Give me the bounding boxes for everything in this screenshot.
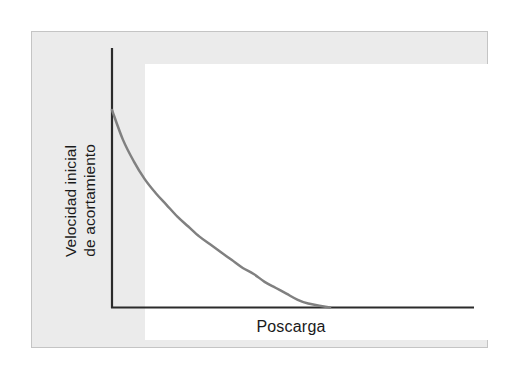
force-velocity-curve — [112, 110, 330, 308]
figure-root: Velocidad inicial de acortamiento Poscar… — [0, 0, 518, 374]
y-axis-label: Velocidad inicial de acortamiento — [56, 98, 102, 303]
y-axis-label-line1: Velocidad inicial — [63, 145, 79, 257]
y-axis-label-line2: de acortamiento — [82, 144, 98, 257]
x-axis-label: Poscarga — [191, 318, 391, 336]
